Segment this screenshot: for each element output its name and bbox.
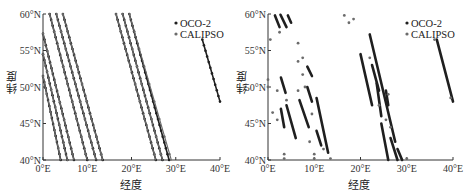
footprint-point <box>348 21 351 24</box>
footprint-point <box>276 118 279 121</box>
track-segment <box>317 131 322 146</box>
legend-oco2-label: OCO-2 <box>180 18 211 29</box>
footprint-point <box>301 56 304 59</box>
y-tick-label: 55°N <box>245 45 266 56</box>
track-segment <box>288 15 291 22</box>
legend-calipso-marker <box>174 32 177 35</box>
footprint-point <box>405 157 408 160</box>
footprint-point <box>352 18 355 21</box>
right-plot-area: 60°N55°N50°N45°N40°N0°E10°E20°E30°E40°EO… <box>236 0 472 195</box>
legend-oco2-label: OCO-2 <box>411 18 442 29</box>
legend-oco2-marker <box>405 21 408 24</box>
footprint-point <box>285 99 288 102</box>
x-tick-label: 0°E <box>35 163 50 174</box>
footprint-point <box>304 86 307 89</box>
footprint-point <box>329 157 332 160</box>
footprint-point <box>267 78 270 81</box>
footprint-point <box>322 148 325 151</box>
y-tick-label: 45°N <box>20 118 41 129</box>
track-segment <box>281 78 286 93</box>
track-segment <box>275 15 280 27</box>
footprint-point <box>297 89 300 92</box>
footprint-point <box>378 104 381 107</box>
footprint-point <box>297 42 300 45</box>
y-tick-label: 60°N <box>245 9 266 20</box>
x-tick-label: 20°E <box>121 163 141 174</box>
x-tick-label: 30°E <box>397 163 417 174</box>
y-tick-label: 60°N <box>20 9 41 20</box>
track-segment <box>287 105 296 138</box>
footprint-point <box>311 113 314 116</box>
track-line <box>123 14 163 160</box>
track-segment <box>307 87 312 102</box>
legend: OCO-2CALIPSO <box>405 18 455 40</box>
legend-oco2-marker <box>174 21 177 24</box>
track-segment <box>281 109 284 127</box>
track-segment <box>317 98 329 153</box>
y-tick-label: 50°N <box>245 82 266 93</box>
track-segment <box>437 40 453 102</box>
legend-calipso-marker <box>405 32 408 35</box>
footprint-point <box>449 97 452 100</box>
y-tick-label: 45°N <box>245 118 266 129</box>
footprint-point <box>313 153 316 156</box>
footprint-point <box>301 73 304 76</box>
y-tick-label: 55°N <box>20 45 41 56</box>
footprint-point <box>297 60 300 63</box>
legend-calipso-label: CALIPSO <box>411 29 455 40</box>
x-tick-label: 30°E <box>166 163 186 174</box>
footprint-point <box>283 153 286 156</box>
left-plot-area: 60°N55°N50°N45°N40°N0°E10°E20°E30°E40°EO… <box>0 0 236 195</box>
track-segment <box>280 15 286 27</box>
x-tick-label: 10°E <box>304 163 324 174</box>
track-segment <box>381 124 388 161</box>
track-segment <box>361 54 373 105</box>
right-chart-panel: 纬度 经度 60°N55°N50°N45°N40°N0°E10°E20°E30°… <box>236 0 472 195</box>
x-tick-label: 40°E <box>210 163 230 174</box>
footprint-point <box>271 111 274 114</box>
track-segment <box>307 67 312 76</box>
footprint-point <box>343 14 346 17</box>
x-tick-label: 40°E <box>443 163 463 174</box>
track-segment <box>299 100 308 127</box>
footprint-point <box>269 38 272 41</box>
footprint-point <box>368 56 371 59</box>
x-tick-label: 10°E <box>77 163 97 174</box>
legend-calipso-label: CALIPSO <box>180 29 224 40</box>
footprint-point <box>308 140 311 143</box>
left-chart-panel: 纬度 经度 60°N55°N50°N45°N40°N0°E10°E20°E30°… <box>0 0 236 195</box>
footprint-point <box>385 118 388 121</box>
track-line <box>202 40 220 102</box>
footprint-point <box>283 157 286 160</box>
footprint-point <box>389 126 392 129</box>
footprint-point <box>276 89 279 92</box>
footprint-point <box>387 93 390 96</box>
footprint-point <box>267 86 270 89</box>
x-tick-label: 20°E <box>350 163 370 174</box>
legend: OCO-2CALIPSO <box>174 18 224 40</box>
footprint-point <box>313 157 316 160</box>
y-tick-label: 50°N <box>20 82 41 93</box>
footprint-point <box>278 31 281 34</box>
x-tick-label: 0°E <box>260 163 275 174</box>
